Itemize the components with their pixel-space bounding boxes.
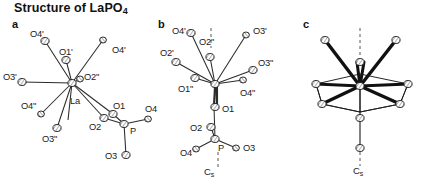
panel-c-bold-bonds bbox=[316, 40, 408, 104]
label-b-cs: Cs bbox=[204, 166, 214, 178]
atom-c-axial-1 bbox=[356, 115, 364, 122]
structure-drawing bbox=[0, 0, 439, 191]
atom-o3p-b bbox=[243, 32, 250, 38]
label-a-o2dprime: O2" bbox=[84, 72, 99, 82]
atom-c-apex-right bbox=[392, 37, 400, 44]
atom-o3-a bbox=[122, 152, 130, 159]
atom-o4dp-a bbox=[38, 111, 45, 117]
label-b-cs-sub: s bbox=[211, 171, 214, 178]
atom-o1p-a bbox=[62, 57, 70, 64]
panel-letter-b: b bbox=[158, 18, 165, 30]
atom-o2p-b bbox=[172, 59, 180, 66]
label-a-o3: O3 bbox=[105, 151, 117, 161]
label-b-o3dprime: O3" bbox=[258, 58, 273, 68]
atom-o2dp-b bbox=[206, 54, 214, 61]
atom-o3p-a bbox=[18, 79, 26, 86]
atom-c-equator-left bbox=[312, 81, 320, 88]
label-b-cs-text: C bbox=[204, 166, 211, 177]
atom-o4-a bbox=[145, 116, 152, 122]
label-a-o4dprime: O4" bbox=[21, 101, 36, 111]
atom-c-equator-right bbox=[404, 81, 412, 88]
atom-o4-b bbox=[193, 146, 200, 152]
atom-c-center-la bbox=[356, 83, 364, 90]
label-a-o4prime-1: O4' bbox=[30, 29, 44, 39]
atom-p-b bbox=[211, 136, 219, 143]
label-b-o2: O2 bbox=[190, 123, 202, 133]
label-b-o2dprime: O2" bbox=[199, 37, 214, 47]
atom-p-a bbox=[120, 121, 128, 128]
panel-a-atoms bbox=[18, 37, 152, 159]
atom-o3-b bbox=[233, 145, 240, 151]
atom-o1-b bbox=[211, 104, 219, 111]
panel-letter-c: c bbox=[303, 18, 309, 30]
atom-la-a bbox=[68, 80, 76, 87]
atom-o4p-b bbox=[187, 30, 195, 37]
atom-o1dp-b bbox=[191, 75, 199, 82]
label-a-la: La bbox=[70, 96, 80, 106]
atom-o2-b bbox=[207, 124, 215, 131]
label-a-p: P bbox=[130, 126, 136, 136]
panel-c-drawing bbox=[312, 28, 412, 166]
panel-c-atoms bbox=[312, 37, 412, 152]
atom-la-b bbox=[211, 81, 219, 88]
label-b-o4prime: O4' bbox=[172, 26, 186, 36]
atom-o2-a bbox=[100, 115, 108, 122]
label-a-o3prime: O3' bbox=[3, 72, 17, 82]
atom-c-lower-right bbox=[396, 101, 404, 108]
label-b-o4: O4 bbox=[180, 148, 192, 158]
label-a-o1: O1 bbox=[113, 101, 125, 111]
panel-letter-a: a bbox=[12, 18, 18, 30]
panel-a-drawing bbox=[18, 37, 152, 159]
label-a-o3dprime: O3" bbox=[42, 134, 57, 144]
atom-c-apex-top bbox=[356, 59, 364, 66]
label-b-o2prime: O2' bbox=[160, 48, 174, 58]
atom-o3dp-b bbox=[249, 67, 257, 74]
atom-c-axial-2 bbox=[356, 145, 364, 152]
label-b-o1: O1 bbox=[222, 104, 234, 114]
label-b-o1dprime: O1" bbox=[178, 84, 193, 94]
structure-figure: Structure of LaPO4 bbox=[0, 0, 439, 191]
atom-c-apex-left bbox=[321, 37, 329, 44]
label-c-cs: Cs bbox=[353, 165, 363, 177]
atom-o3dp-a bbox=[53, 125, 61, 132]
atom-o4dp-b bbox=[240, 77, 247, 83]
label-b-o3: O3 bbox=[243, 143, 255, 153]
label-a-o2: O2 bbox=[89, 122, 101, 132]
atom-o2dp-a bbox=[77, 76, 84, 82]
label-b-p: P bbox=[218, 143, 224, 153]
label-b-o3prime: O3' bbox=[253, 26, 267, 36]
panel-a-phosphate-bonds bbox=[104, 114, 148, 155]
atom-c-lower-left bbox=[318, 101, 326, 108]
label-a-o4: O4 bbox=[145, 104, 157, 114]
label-c-cs-text: C bbox=[353, 165, 360, 176]
atom-o1-a bbox=[109, 111, 117, 118]
label-c-cs-sub: s bbox=[360, 170, 363, 177]
label-a-o1prime: O1' bbox=[59, 47, 73, 57]
label-b-o4dprime: O4" bbox=[240, 88, 255, 98]
label-a-o4prime-2: O4' bbox=[112, 45, 126, 55]
atom-o4p-a2 bbox=[100, 37, 107, 43]
